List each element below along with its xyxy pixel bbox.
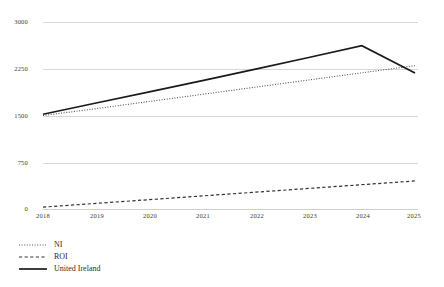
x-tick-label-2023: 2023	[290, 213, 330, 220]
y-tick-label-3000: 3000	[0, 19, 28, 26]
x-tick-label-2020: 2020	[130, 213, 170, 220]
gridline-2250	[43, 69, 418, 70]
legend: NI ROI United Ireland	[19, 239, 219, 275]
legend-item-roi[interactable]: ROI	[19, 251, 219, 263]
line-chart: 3000 2250 1500 750 0 2018 2019 2020 2021…	[0, 0, 444, 287]
x-tick-label-2019: 2019	[77, 213, 117, 220]
plot-area	[43, 22, 418, 209]
gridline-3000	[43, 22, 418, 23]
x-tick-label-2024: 2024	[343, 213, 383, 220]
x-tick-label-2022: 2022	[237, 213, 277, 220]
y-tick-label-1500: 1500	[0, 113, 28, 120]
x-tick-label-2025: 2025	[394, 213, 434, 220]
legend-swatch-dotted-icon	[19, 240, 47, 250]
gridline-0	[43, 209, 418, 210]
y-tick-label-750: 750	[0, 160, 28, 167]
legend-item-united-ireland[interactable]: United Ireland	[19, 263, 219, 275]
legend-label-united-ireland: United Ireland	[54, 265, 100, 273]
y-tick-label-0: 0	[0, 206, 28, 213]
legend-label-roi: ROI	[54, 253, 68, 261]
x-tick-label-2018: 2018	[23, 213, 63, 220]
legend-label-ni: NI	[54, 241, 62, 249]
gridline-750	[43, 163, 418, 164]
x-tick-label-2021: 2021	[183, 213, 223, 220]
legend-item-ni[interactable]: NI	[19, 239, 219, 251]
legend-swatch-dashed-icon	[19, 252, 47, 262]
y-tick-label-2250: 2250	[0, 66, 28, 73]
gridline-1500	[43, 116, 418, 117]
legend-swatch-solid-icon	[19, 264, 47, 274]
